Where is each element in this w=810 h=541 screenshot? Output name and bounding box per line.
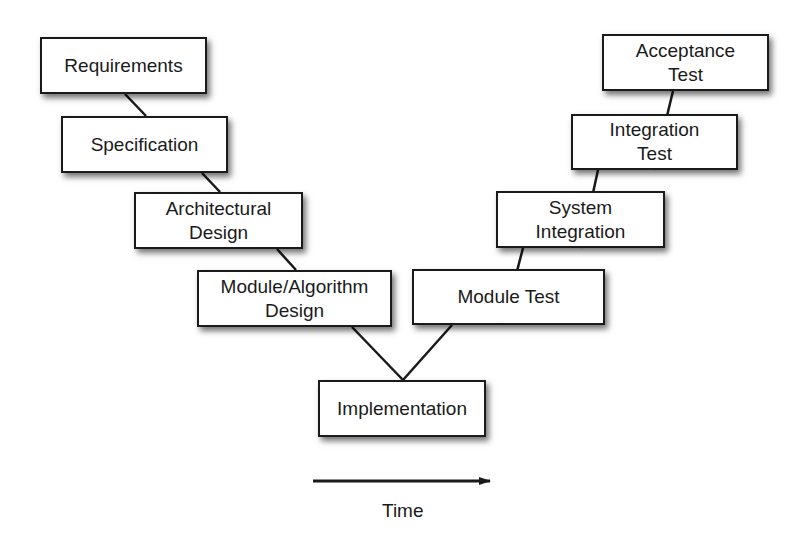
phase-label: Test (610, 142, 700, 166)
phase-label: Module/Algorithm (221, 275, 369, 299)
phase-label: Specification (91, 133, 199, 157)
phase-box-requirements: Requirements (40, 37, 207, 94)
phase-label: Design (221, 299, 369, 323)
connector-line (277, 249, 296, 270)
phase-box-system-integration: SystemIntegration (496, 191, 665, 248)
v-model-diagram: RequirementsSpecificationArchitecturalDe… (0, 0, 810, 541)
phase-label: Design (166, 221, 272, 245)
phase-label: Requirements (64, 54, 182, 78)
phase-box-specification: Specification (61, 116, 228, 173)
phase-label: Module Test (457, 285, 559, 309)
phase-label: Integration (610, 118, 700, 142)
phase-box-acceptance-test: AcceptanceTest (602, 34, 769, 91)
phase-box-architectural-design: ArchitecturalDesign (134, 192, 303, 249)
connector-line (202, 173, 220, 192)
phase-label: Implementation (337, 397, 467, 421)
phase-label: Acceptance (636, 39, 735, 63)
phase-box-module-algorithm-design: Module/AlgorithmDesign (197, 270, 392, 327)
phase-label: System (536, 196, 626, 220)
phase-label: Integration (536, 220, 626, 244)
phase-label: Test (636, 63, 735, 87)
phase-box-implementation: Implementation (318, 380, 486, 437)
connector-line (352, 327, 403, 380)
phase-box-integration-test: IntegrationTest (571, 114, 738, 170)
time-axis-label: Time (382, 500, 424, 522)
connector-line (403, 325, 452, 380)
phase-label: Architectural (166, 197, 272, 221)
phase-box-module-test: Module Test (412, 269, 605, 325)
connector-line (125, 94, 146, 116)
